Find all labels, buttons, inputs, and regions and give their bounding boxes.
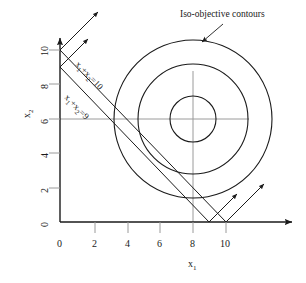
x-axis <box>60 222 292 233</box>
y-axis-label-text: x <box>21 113 32 118</box>
y-axis-label: x2 <box>22 110 35 119</box>
y-tick-label-10: 10 <box>40 46 50 56</box>
gradient-arrows <box>60 12 264 222</box>
y-tick-label-6: 6 <box>40 119 50 124</box>
y-axis <box>49 38 60 222</box>
x-tick-label-10: 10 <box>220 239 230 249</box>
x-tick-label-4: 4 <box>125 239 130 249</box>
annotation-leader-line <box>202 24 223 42</box>
y-tick-label-8: 8 <box>40 84 50 89</box>
x-tick-label-6: 6 <box>157 239 162 249</box>
y-axis-label-subscript: 2 <box>27 110 35 114</box>
x-axis-label-subscript: 1 <box>193 264 197 272</box>
y-tick-label-4: 4 <box>40 153 50 158</box>
contour-center-crosshair <box>60 71 249 222</box>
constraint-line-9 <box>60 67 209 222</box>
x-tick-label-0: 0 <box>57 239 62 249</box>
iso-objective-contour-plot <box>0 0 306 283</box>
gradient-arrow-lower-1 <box>209 194 237 222</box>
gradient-arrow-upper-1 <box>60 12 98 50</box>
gradient-arrow-lower-2 <box>226 184 264 222</box>
iso-objective-contours-annotation: Iso-objective contours <box>180 10 265 20</box>
x-tick-label-2: 2 <box>92 239 97 249</box>
x-axis-label: x1 <box>188 259 197 272</box>
y-tick-label-2: 2 <box>40 188 50 193</box>
y-tick-label-0: 0 <box>40 222 50 227</box>
x-tick-label-8: 8 <box>190 239 195 249</box>
